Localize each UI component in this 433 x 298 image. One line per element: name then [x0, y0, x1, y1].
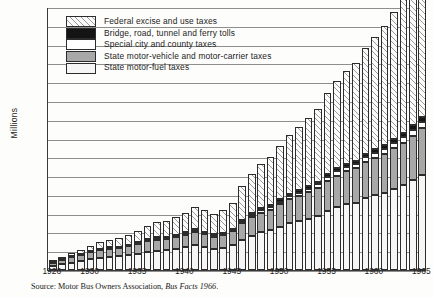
segment-fuel: [295, 221, 303, 270]
legend-item-federal: Federal excise and use taxes: [66, 16, 272, 28]
x-tick-label: 1950: [270, 266, 289, 276]
segment-special: [400, 137, 408, 143]
segment-vehicle: [172, 237, 180, 249]
segment-vehicle: [400, 143, 408, 185]
segment-special: [238, 221, 246, 223]
legend-item-fuel: State motor-fuel taxes: [66, 62, 272, 74]
segment-fuel: [381, 193, 389, 270]
segment-federal: [286, 135, 294, 194]
segment-fuel: [257, 232, 265, 270]
segment-special: [371, 153, 379, 158]
segment-vehicle: [58, 260, 66, 264]
segment-vehicle: [295, 196, 303, 221]
bar-1955: [324, 7, 332, 270]
segment-vehicle: [238, 223, 246, 240]
segment-fuel: [201, 247, 209, 270]
bar-1954: [314, 7, 322, 270]
segment-fuel: [343, 204, 351, 270]
segment-bridge: [371, 149, 379, 153]
x-tick-label: 1960: [365, 266, 384, 276]
segment-fuel: [276, 227, 284, 270]
segment-vehicle: [381, 154, 389, 193]
segment-federal: [400, 0, 408, 133]
segment-bridge: [409, 125, 417, 130]
x-tick-label: 1935: [128, 266, 147, 276]
segment-fuel: [267, 230, 275, 270]
segment-vehicle: [210, 237, 218, 249]
segment-fuel: [333, 207, 341, 270]
segment-vehicle: [276, 204, 284, 227]
source-suffix: .: [216, 282, 218, 291]
segment-federal: [210, 214, 218, 234]
segment-bridge: [267, 205, 275, 207]
segment-special: [409, 130, 417, 136]
segment-federal: [201, 210, 209, 231]
segment-special: [286, 196, 294, 199]
segment-federal: [381, 26, 389, 145]
segment-federal: [153, 222, 161, 237]
segment-fuel: [210, 249, 218, 270]
segment-bridge: [286, 194, 294, 196]
legend-label: State motor-fuel taxes: [104, 62, 189, 74]
segment-special: [276, 202, 284, 205]
segment-federal: [343, 71, 351, 164]
segment-federal: [115, 238, 123, 246]
segment-fuel: [352, 203, 360, 270]
segment-federal: [248, 174, 256, 213]
segment-vehicle: [219, 235, 227, 248]
segment-vehicle: [286, 199, 294, 223]
bar-1965: [418, 7, 426, 270]
segment-fuel: [153, 251, 161, 270]
chart-legend: Federal excise and use taxesBridge, road…: [66, 16, 272, 74]
segment-federal: [125, 235, 133, 245]
segment-vehicle: [229, 231, 237, 245]
legend-swatch-fuel: [66, 63, 96, 74]
segment-vehicle: [314, 188, 322, 216]
segment-federal: [134, 231, 142, 243]
x-tick-label: 1930: [80, 266, 99, 276]
segment-federal: [172, 217, 180, 234]
segment-fuel: [390, 189, 398, 270]
segment-federal: [182, 213, 190, 232]
segment-bridge: [343, 164, 351, 167]
segment-vehicle: [324, 181, 332, 211]
segment-special: [381, 149, 389, 154]
segment-fuel: [68, 263, 76, 270]
segment-bridge: [295, 190, 303, 192]
legend-swatch-federal: [66, 16, 96, 27]
segment-vehicle: [68, 257, 76, 262]
legend-swatch-special: [66, 39, 96, 50]
segment-bridge: [400, 133, 408, 137]
source-note: Source: Motor Bus Owners Association, Bu…: [31, 282, 218, 291]
segment-special: [418, 122, 426, 128]
bar-1927: [58, 7, 66, 270]
segment-bridge: [362, 154, 370, 158]
tax-revenue-stacked-bar-chart: Millions 01,0002,0003,0004,0005,0006,000…: [0, 0, 433, 298]
legend-swatch-vehicle: [66, 51, 96, 62]
segment-bridge: [418, 117, 426, 122]
bar-1964: [409, 7, 417, 270]
segment-federal: [352, 63, 360, 160]
segment-vehicle: [305, 192, 313, 219]
segment-vehicle: [191, 232, 199, 246]
bar-1958: [352, 7, 360, 270]
segment-special: [295, 193, 303, 196]
segment-bridge: [352, 161, 360, 164]
segment-vehicle: [153, 240, 161, 251]
segment-vehicle: [125, 246, 133, 255]
segment-federal: [163, 221, 171, 237]
segment-vehicle: [257, 213, 265, 233]
segment-bridge: [305, 186, 313, 189]
segment-bridge: [390, 139, 398, 143]
legend-item-vehicle: State motor-vehicle and motor-carrier ta…: [66, 51, 272, 63]
segment-federal: [68, 253, 76, 256]
segment-federal: [49, 260, 57, 262]
legend-label: State motor-vehicle and motor-carrier ta…: [104, 51, 272, 63]
segment-special: [267, 207, 275, 210]
segment-special: [390, 143, 398, 148]
segment-federal: [333, 81, 341, 169]
segment-fuel: [418, 175, 426, 270]
segment-federal: [144, 226, 152, 240]
legend-label: Bridge, road, tunnel and ferry tolls: [104, 28, 235, 40]
segment-vehicle: [371, 158, 379, 196]
